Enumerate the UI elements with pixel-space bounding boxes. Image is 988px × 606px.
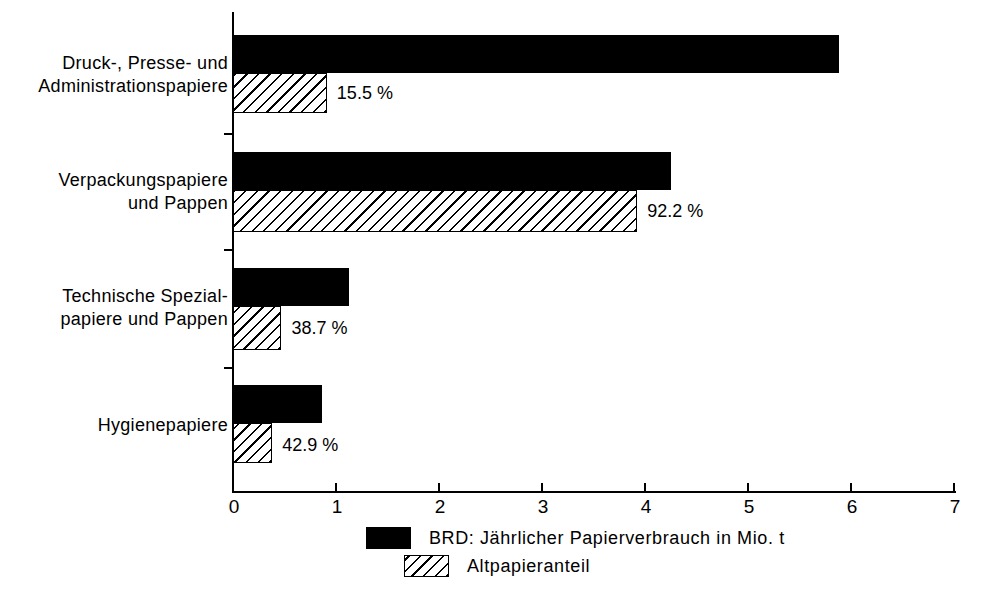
x-axis-tick-label-0: 0 — [214, 496, 254, 518]
x-axis-tick-label-5: 5 — [729, 496, 769, 518]
percent-label-1: 15.5 % — [337, 83, 393, 103]
x-axis-tick-label-3: 3 — [523, 496, 563, 518]
bar-consumption-2 — [233, 152, 671, 190]
x-axis-tick-3 — [541, 483, 543, 492]
x-axis-tick-label-1: 1 — [317, 496, 357, 518]
bar-recycled-4 — [233, 423, 272, 463]
x-axis-tick-label-4: 4 — [626, 496, 666, 518]
legend-item-recycled: Altpapieranteil — [0, 552, 988, 580]
x-axis-tick-label-2: 2 — [420, 496, 460, 518]
x-axis-tick-label-6: 6 — [832, 496, 872, 518]
category-label-1: Druck-, Presse- und Administrationspapie… — [38, 52, 228, 98]
x-axis-tick-7 — [953, 483, 955, 492]
x-axis-line — [233, 491, 956, 493]
x-axis-tick-4 — [644, 483, 646, 492]
category-label-3: Technische Spezial- papiere und Pappen — [60, 285, 228, 331]
bar-chart: Druck-, Presse- und Administrationspapie… — [0, 0, 988, 606]
legend-item-consumption: BRD: Jährlicher Papierverbrauch in Mio. … — [0, 524, 988, 552]
legend-label-recycled: Altpapieranteil — [467, 555, 590, 577]
bar-recycled-3 — [233, 306, 281, 350]
legend-label-consumption: BRD: Jährlicher Papierverbrauch in Mio. … — [429, 527, 785, 549]
bar-recycled-2 — [233, 190, 637, 232]
legend-hatch-swatch-icon — [404, 555, 449, 577]
x-axis-tick-5 — [747, 483, 749, 492]
category-label-4: Hygienepapiere — [98, 414, 228, 437]
percent-label-2: 92.2 % — [647, 201, 703, 221]
bar-consumption-1 — [233, 35, 839, 73]
x-axis-tick-6 — [850, 483, 852, 492]
chart-legend: BRD: Jährlicher Papierverbrauch in Mio. … — [0, 524, 988, 580]
x-axis-tick-2 — [438, 483, 440, 492]
x-axis-tick-label-7: 7 — [935, 496, 975, 518]
legend-solid-swatch-icon — [366, 527, 411, 549]
y-axis-tick-1 — [224, 133, 233, 135]
bar-consumption-4 — [233, 385, 322, 423]
y-axis-tick-3 — [224, 367, 233, 369]
percent-label-3: 38.7 % — [291, 318, 347, 338]
x-axis-tick-1 — [335, 483, 337, 492]
y-axis-tick-2 — [224, 249, 233, 251]
percent-label-4: 42.9 % — [282, 435, 338, 455]
x-axis-tick-0 — [232, 483, 234, 492]
category-label-2: Verpackungspapiere und Pappen — [58, 169, 228, 215]
bar-recycled-1 — [233, 73, 327, 113]
bar-consumption-3 — [233, 268, 349, 306]
